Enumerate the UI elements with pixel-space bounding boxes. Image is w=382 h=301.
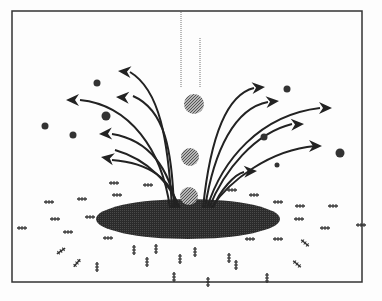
splash-diagram [0, 0, 382, 301]
droplets [180, 94, 204, 205]
fall-lines [181, 12, 200, 88]
right-arrow-heads [244, 81, 332, 178]
right-arrows [203, 88, 320, 208]
left-arrows [80, 72, 180, 208]
pool [96, 199, 280, 239]
